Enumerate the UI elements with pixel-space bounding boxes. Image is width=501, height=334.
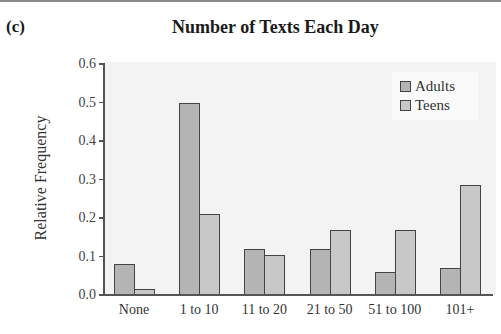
x-tick-label: 101+ <box>428 302 492 318</box>
bar-teens <box>264 255 285 295</box>
bar-teens <box>330 230 351 295</box>
y-tick-label: 0.0 <box>68 288 96 302</box>
x-tick-label: 1 to 10 <box>167 302 231 318</box>
x-axis <box>103 294 493 296</box>
chart-title: Number of Texts Each Day <box>172 17 379 38</box>
y-axis-title: Relative Frequency <box>32 116 50 241</box>
bar-adults <box>310 249 331 295</box>
bar-adults <box>244 249 265 295</box>
bar-teens <box>395 230 416 295</box>
bar-adults <box>375 272 396 295</box>
bar-adults <box>440 268 461 295</box>
y-tick-label: 0.3 <box>68 173 96 187</box>
y-tick-label: 0.1 <box>68 250 96 264</box>
legend-item-adults: Adults <box>400 77 455 95</box>
x-tick-label: 51 to 100 <box>363 302 427 318</box>
bar-adults <box>114 264 135 295</box>
panel-label: (c) <box>6 17 25 37</box>
y-tick-label: 0.4 <box>68 134 96 148</box>
legend-label: Teens <box>415 97 450 114</box>
y-tick-label: 0.2 <box>68 211 96 225</box>
bar-teens <box>199 214 220 295</box>
y-tick-label: 0.5 <box>68 96 96 110</box>
legend-item-teens: Teens <box>400 96 450 114</box>
top-border <box>0 0 501 2</box>
x-tick-label: 11 to 20 <box>232 302 296 318</box>
bar-adults <box>179 103 200 296</box>
x-tick-label: None <box>102 302 166 318</box>
legend: Adults Teens <box>392 72 478 120</box>
y-axis <box>103 63 105 296</box>
x-tick-label: 21 to 50 <box>298 302 362 318</box>
legend-label: Adults <box>415 78 455 95</box>
bar-teens <box>460 185 481 295</box>
legend-swatch-adults <box>400 81 411 92</box>
legend-swatch-teens <box>400 100 411 111</box>
y-tick-label: 0.6 <box>68 57 96 71</box>
